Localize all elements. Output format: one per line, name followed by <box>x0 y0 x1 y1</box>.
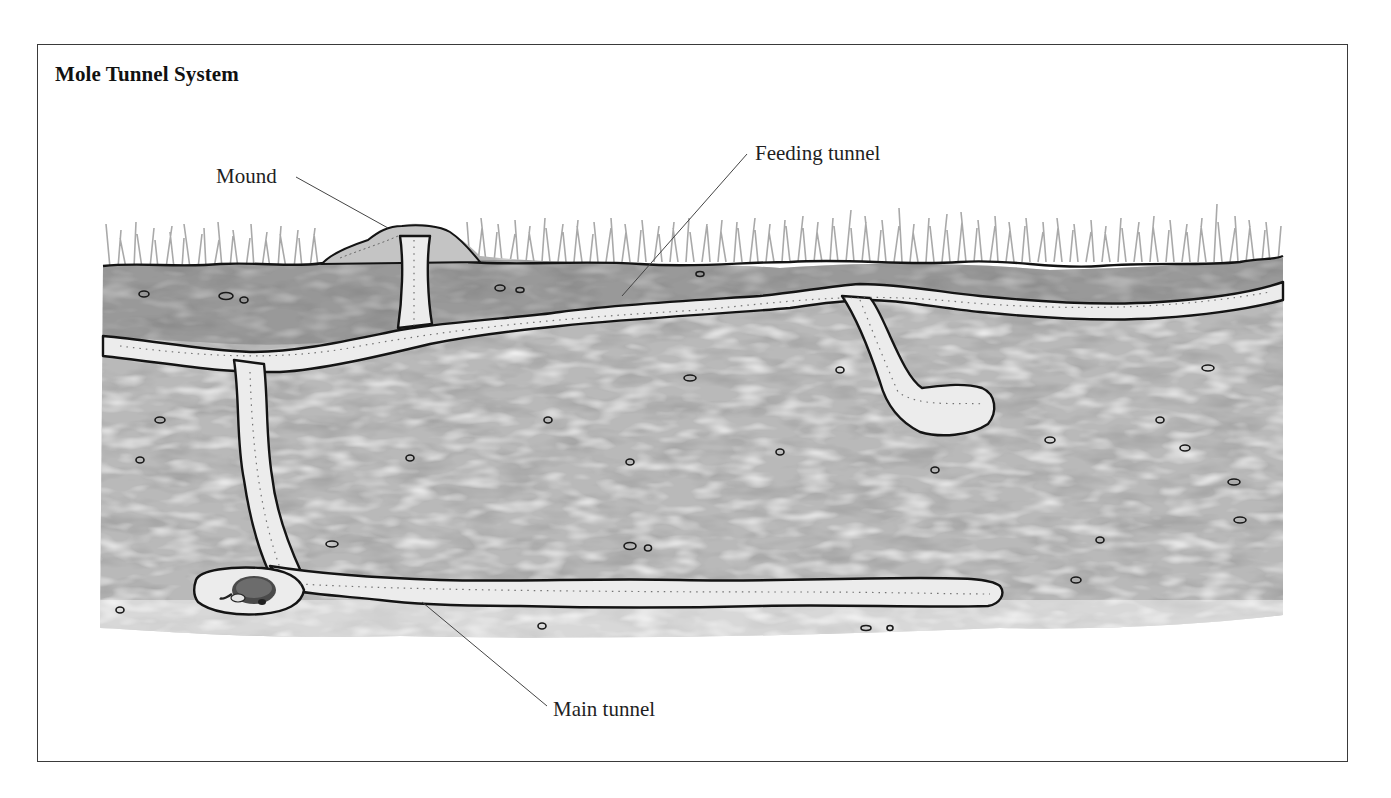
label-main-tunnel: Main tunnel <box>553 697 655 722</box>
label-feeding-tunnel: Feeding tunnel <box>755 141 880 166</box>
leader-mound <box>296 177 388 228</box>
grass <box>106 204 1281 268</box>
label-mound: Mound <box>216 164 277 189</box>
mound-shaft <box>398 236 432 328</box>
mole-tunnel-illustration <box>0 0 1391 798</box>
soil-surface-line <box>103 262 330 266</box>
